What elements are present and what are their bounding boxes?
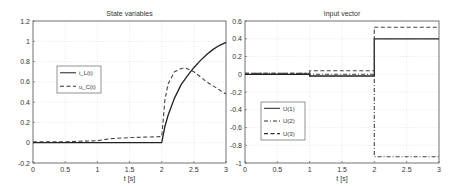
x-tick-label: 3 <box>437 166 441 173</box>
y-tick-label: 0 <box>238 71 242 78</box>
y-tick-label: 0.6 <box>232 18 242 25</box>
y-tick-label: -0.4 <box>230 106 242 113</box>
legend: i_L(t)u_C(t) <box>57 66 101 93</box>
x-tick-label: 0 <box>243 166 247 173</box>
legend: U(1)U(2)U(3) <box>261 102 305 140</box>
x-tick-label: 0 <box>31 166 35 173</box>
y-tick-label: 0.6 <box>20 78 30 85</box>
y-tick-label: 0 <box>26 139 30 146</box>
x-axis-label: t [s] <box>336 175 347 183</box>
y-tick-label: 0.4 <box>232 35 242 42</box>
y-tick-label: 0.8 <box>20 58 30 65</box>
chart-title: State variables <box>106 10 153 17</box>
x-tick-label: 1 <box>95 166 99 173</box>
y-tick-label: -1 <box>236 160 242 167</box>
y-tick-label: -0.8 <box>230 142 242 149</box>
x-tick-label: 1.5 <box>337 166 347 173</box>
x-tick-label: 0.5 <box>60 166 70 173</box>
x-tick-label: 2.5 <box>189 166 199 173</box>
x-tick-label: 2 <box>372 166 376 173</box>
x-tick-label: 1 <box>308 166 312 173</box>
chart-1: 00.511.522.53-1-0.8-0.6-0.4-0.200.20.40.… <box>230 10 441 183</box>
y-tick-label: 1 <box>26 38 30 45</box>
x-tick-label: 1.5 <box>125 166 135 173</box>
x-tick-label: 2.5 <box>402 166 412 173</box>
x-axis-label: t [s] <box>124 175 135 183</box>
legend-entry: i_L(t) <box>79 70 93 76</box>
chart-0: 00.511.522.53-0.200.20.40.60.811.2State … <box>18 10 228 183</box>
x-tick-label: 3 <box>224 166 228 173</box>
figure: 00.511.522.53-0.200.20.40.60.811.2State … <box>0 0 461 186</box>
legend-entry: u_C(t) <box>79 84 96 90</box>
x-tick-label: 2 <box>160 166 164 173</box>
legend-entry: U(1) <box>283 106 295 112</box>
legend-entry: U(3) <box>283 131 295 137</box>
x-tick-label: 0.5 <box>272 166 282 173</box>
y-tick-label: 1.2 <box>20 18 30 25</box>
y-tick-label: -0.2 <box>18 160 30 167</box>
y-tick-label: 0.2 <box>20 119 30 126</box>
y-tick-label: -0.6 <box>230 124 242 131</box>
y-tick-label: -0.2 <box>230 89 242 96</box>
y-tick-label: 0.4 <box>20 99 30 106</box>
y-tick-label: 0.2 <box>232 53 242 60</box>
legend-entry: U(2) <box>283 118 295 124</box>
chart-title: Input vector <box>324 10 361 18</box>
